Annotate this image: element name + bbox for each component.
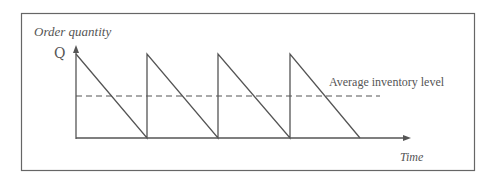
average-label: Average inventory level bbox=[329, 75, 444, 90]
x-axis-label: Time bbox=[400, 150, 423, 165]
peak-label: Q bbox=[54, 45, 65, 61]
y-axis-arrow-icon bbox=[73, 45, 79, 53]
x-axis-arrow-icon bbox=[403, 135, 411, 141]
y-axis-label: Order quantity bbox=[34, 24, 111, 40]
